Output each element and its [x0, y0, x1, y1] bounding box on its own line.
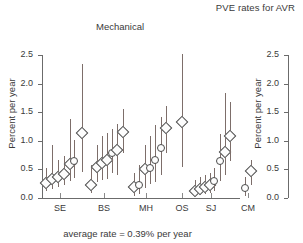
panel-right-cropped: Percent per year 0.00.51.01.52.02.5: [248, 45, 303, 227]
data-point-marker: [85, 178, 98, 191]
average-rate-note: average rate = 0.39% per year: [0, 228, 255, 239]
y-tick-plot-right: 0.0: [284, 198, 288, 199]
data-point-marker: [135, 181, 143, 189]
y-tick-plot-left: 1.0: [38, 141, 42, 142]
data-point-marker: [216, 157, 224, 165]
y-tick-label: 2.0: [20, 78, 33, 88]
y-tick-plot-left: 1.5: [38, 112, 42, 113]
y-tick-label: 1.5: [266, 106, 279, 116]
y-tick-label: 1.0: [266, 135, 279, 145]
x-group-label-bs: BS: [98, 203, 110, 213]
confidence-interval-line: [82, 64, 83, 172]
y-axis-line-left: [42, 55, 43, 198]
x-tick: [60, 193, 61, 198]
plot-area-right: 0.00.51.01.52.02.5: [288, 45, 303, 227]
y-axis-line-right: [288, 55, 289, 198]
panel-title-mechanical: Mechanical: [60, 21, 180, 32]
y-tick-plot-left: 2.5: [38, 55, 42, 56]
y-tick-plot-right: 1.5: [284, 112, 288, 113]
y-tick-label: 0.0: [20, 192, 33, 202]
y-tick-plot-left: 2.0: [38, 84, 42, 85]
data-point-marker: [117, 126, 130, 139]
y-tick-label: 0.0: [266, 192, 279, 202]
confidence-interval-line: [70, 119, 71, 181]
y-axis-label-right: Percent per year: [252, 64, 263, 164]
data-point-marker: [210, 177, 218, 185]
y-tick-label: 1.0: [20, 135, 33, 145]
y-tick-plot-right: 2.5: [284, 55, 288, 56]
y-tick-label: 2.0: [266, 78, 279, 88]
y-tick-label: 1.5: [20, 106, 33, 116]
figure-title: PVE rates for AVR: [216, 2, 295, 13]
plot-area-left: 0.00.51.01.52.02.5SEBSMHOSSJCM: [42, 45, 240, 227]
data-point-marker: [157, 144, 165, 152]
x-axis-line-left: [42, 198, 240, 199]
x-group-label-mh: MH: [139, 203, 153, 213]
y-tick-label: 2.5: [266, 49, 279, 59]
x-tick: [182, 193, 183, 198]
data-point-marker: [76, 126, 89, 139]
x-tick: [211, 193, 212, 198]
y-tick-plot-left: 0.0: [38, 198, 42, 199]
y-tick-plot-right: 1.0: [284, 141, 288, 142]
y-tick-label: 2.5: [20, 49, 33, 59]
x-tick: [104, 193, 105, 198]
y-tick-label: 0.5: [20, 163, 33, 173]
data-point-marker: [70, 157, 78, 165]
y-axis-label-left: Percent per year: [6, 64, 17, 164]
data-point-marker: [176, 116, 189, 129]
figure-root: PVE rates for AVR Mechanical Percent per…: [0, 0, 303, 243]
y-tick-plot-right: 2.0: [284, 84, 288, 85]
y-tick-label: 0.5: [266, 163, 279, 173]
panel-mechanical: Percent per year 0.00.51.01.52.02.5SEBSM…: [0, 45, 240, 227]
confidence-interval-line: [182, 54, 183, 167]
data-point-marker: [151, 156, 159, 164]
x-group-label-os: OS: [175, 203, 188, 213]
y-tick-plot-right: 0.5: [284, 169, 288, 170]
x-group-label-sj: SJ: [206, 203, 217, 213]
confidence-interval-line: [155, 125, 156, 182]
x-group-label-se: SE: [54, 203, 66, 213]
data-point-marker: [146, 164, 154, 172]
x-tick: [146, 193, 147, 198]
y-tick-plot-left: 0.5: [38, 169, 42, 170]
